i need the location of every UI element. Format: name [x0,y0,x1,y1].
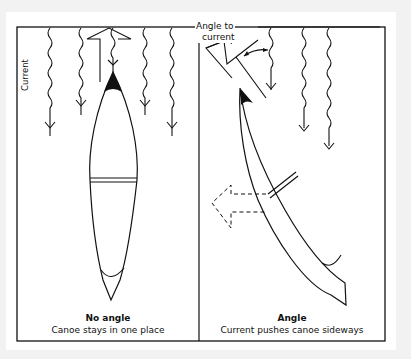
current-label: Current [20,59,30,91]
panel-caption-no-angle: No angle Canoe stays in one place [17,312,199,336]
angle-label-line2: current [196,32,234,42]
current-arrows-right [266,28,334,149]
angle-label-line1: Angle to [196,21,234,31]
panel-subtitle-no-angle: Canoe stays in one place [52,325,165,335]
paddle-direction-arrow-right [206,40,266,98]
canoe-diagram [0,0,411,359]
canoe-left [90,72,138,300]
paddle-direction-arrow-left [87,28,131,82]
angle-to-current-label: Angle to current [195,21,235,43]
panel-subtitle-angle: Current pushes canoe sideways [221,325,364,335]
panel-caption-angle: Angle Current pushes canoe sideways [199,312,385,336]
panel-title-no-angle: No angle [17,312,199,324]
panel-title-angle: Angle [199,312,385,324]
